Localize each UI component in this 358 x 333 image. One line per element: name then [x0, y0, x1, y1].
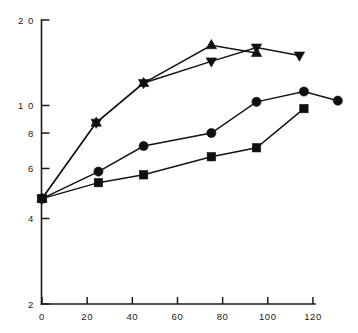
data-point-circle	[333, 96, 342, 105]
series-circle-series	[37, 87, 342, 203]
data-point-square	[207, 153, 215, 161]
data-point-circle	[207, 128, 216, 137]
data-point-square	[252, 144, 260, 152]
x-tick-label: 120	[304, 311, 322, 322]
axes-group	[42, 20, 315, 304]
data-point-square	[38, 194, 46, 202]
series-line	[42, 45, 257, 198]
data-point-triangle-down	[294, 52, 304, 61]
x-tick-labels: 020406080100120	[39, 311, 322, 322]
data-point-triangle-up	[206, 40, 216, 49]
data-point-circle	[139, 141, 148, 150]
x-tick-label: 40	[126, 311, 138, 322]
data-point-square	[94, 178, 102, 186]
x-tick-label: 0	[39, 311, 45, 322]
y-tick-labels: 24681 02 0	[18, 15, 35, 310]
data-series-group	[37, 40, 343, 205]
y-tick-label: 2 0	[18, 15, 35, 26]
series-line	[42, 109, 304, 199]
y-tick-label: 4	[28, 213, 34, 224]
data-point-circle	[252, 97, 261, 106]
data-point-square	[300, 104, 308, 112]
series-line	[42, 48, 299, 199]
x-tick-label: 100	[259, 311, 277, 322]
y-tick-label: 2	[28, 299, 34, 310]
chart-container: 24681 02 0 020406080100120	[0, 0, 358, 333]
y-tick-group	[42, 20, 50, 304]
data-point-circle	[94, 167, 103, 176]
x-tick-label: 60	[172, 311, 184, 322]
x-tick-group	[42, 297, 313, 304]
series-line	[42, 92, 338, 199]
y-tick-label: 6	[28, 163, 34, 174]
y-tick-label: 8	[28, 128, 34, 139]
data-point-square	[139, 171, 147, 179]
x-tick-label: 80	[217, 311, 229, 322]
x-tick-label: 20	[81, 311, 93, 322]
y-tick-label: 1 0	[18, 100, 35, 111]
line-chart-plot: 24681 02 0 020406080100120	[0, 0, 358, 333]
data-point-circle	[299, 87, 308, 96]
series-square-series	[38, 104, 308, 202]
